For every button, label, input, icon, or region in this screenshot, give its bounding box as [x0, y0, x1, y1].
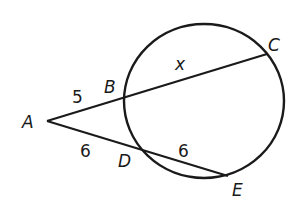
length-ad: 6 — [80, 141, 91, 161]
point-label-e: E — [232, 180, 243, 200]
secant-diagram: A B C D E 5 x 6 6 — [0, 0, 301, 204]
point-label-c: C — [268, 35, 280, 55]
length-de: 6 — [178, 141, 189, 161]
point-label-b: B — [104, 77, 116, 97]
circle — [124, 24, 284, 178]
length-bc: x — [174, 54, 186, 74]
secant-ae — [47, 121, 228, 176]
point-label-d: D — [118, 151, 131, 171]
point-label-a: A — [21, 112, 34, 132]
length-ab: 5 — [72, 87, 83, 107]
